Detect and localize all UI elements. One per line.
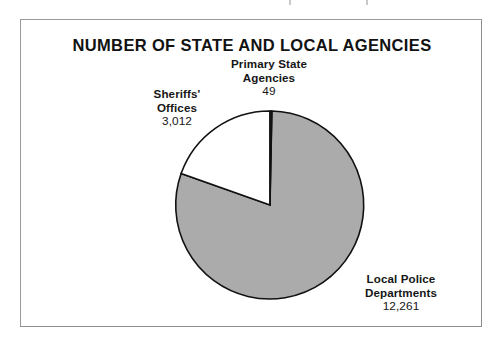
pie-label-name: Sheriffs' Offices xyxy=(117,87,237,114)
pie-label-value: 3,012 xyxy=(117,115,237,129)
pie-label-value: 12,261 xyxy=(331,300,471,314)
figure-frame: NUMBER OF STATE AND LOCAL AGENCIES Prima… xyxy=(20,19,482,327)
scan-speck xyxy=(366,0,368,5)
scan-speck xyxy=(289,0,291,5)
pie-label-local-police-departments: Local Police Departments 12,261 xyxy=(331,272,471,314)
pie-label-name: Primary State Agencies xyxy=(189,57,349,84)
pie-label-name: Local Police Departments xyxy=(331,272,471,299)
scan-artifact-strip xyxy=(0,0,500,19)
pie-label-sheriffs-offices: Sheriffs' Offices 3,012 xyxy=(117,87,237,129)
